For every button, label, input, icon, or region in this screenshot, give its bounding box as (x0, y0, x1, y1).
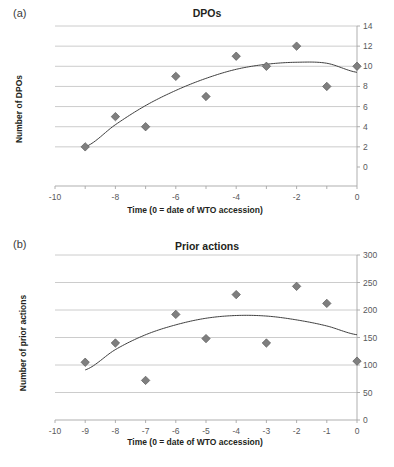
data-point-marker (202, 334, 210, 342)
data-point-marker (232, 52, 240, 60)
data-point-marker (202, 92, 210, 100)
y-tick-label: 100 (363, 360, 377, 370)
x-tick-label: -3 (263, 426, 271, 436)
plot-area-a: 02468101214-10-8-6-4-20 (0, 0, 394, 233)
y-tick-label: 6 (363, 102, 368, 112)
x-tick-label: -2 (293, 426, 301, 436)
plot-area-b: 050100150200250300-10-9-8-7-6-5-4-3-2-10 (0, 233, 394, 467)
data-point-marker (262, 62, 270, 70)
x-tick-label: 0 (355, 426, 360, 436)
x-tick-label: -5 (202, 426, 210, 436)
x-tick-label: 0 (355, 192, 360, 202)
y-tick-label: 250 (363, 278, 377, 288)
trend-line (85, 315, 357, 370)
y-tick-label: 8 (363, 81, 368, 91)
data-point-marker (141, 376, 149, 384)
data-point-marker (81, 143, 89, 151)
data-point-marker (141, 123, 149, 131)
data-point-marker (323, 299, 331, 307)
y-axis-label-b: Number of prior actions (18, 278, 28, 408)
x-tick-label: -10 (49, 192, 62, 202)
y-tick-label: 150 (363, 333, 377, 343)
y-tick-label: 12 (363, 41, 373, 51)
x-tick-label: -8 (112, 192, 120, 202)
data-point-marker (111, 112, 119, 120)
y-tick-label: 50 (363, 388, 373, 398)
x-tick-label: -10 (49, 426, 62, 436)
data-point-marker (111, 339, 119, 347)
y-tick-label: 300 (363, 250, 377, 260)
x-tick-label: -2 (293, 192, 301, 202)
chart-panel-b: (b) Prior actions 050100150200250300-10-… (0, 233, 394, 467)
data-point-marker (232, 290, 240, 298)
data-point-marker (323, 82, 331, 90)
y-tick-label: 4 (363, 122, 368, 132)
x-tick-label: -4 (232, 426, 240, 436)
data-point-marker (172, 72, 180, 80)
x-axis-label-a: Time (0 = date of WTO accession) (30, 205, 360, 215)
data-point-marker (353, 357, 361, 365)
x-tick-label: -4 (232, 192, 240, 202)
trend-line (85, 62, 357, 147)
data-point-marker (172, 310, 180, 318)
x-tick-label: -6 (172, 426, 180, 436)
x-tick-label: -7 (142, 426, 150, 436)
y-tick-label: 10 (363, 61, 373, 71)
x-axis-label-b: Time (0 = date of WTO accession) (30, 437, 360, 447)
x-tick-label: -6 (172, 192, 180, 202)
data-point-marker (292, 42, 300, 50)
data-point-marker (262, 339, 270, 347)
y-tick-label: 0 (363, 415, 368, 425)
y-tick-label: 200 (363, 305, 377, 315)
data-point-marker (353, 62, 361, 70)
y-tick-label: 14 (363, 21, 373, 31)
data-point-marker (292, 282, 300, 290)
x-tick-label: -9 (81, 426, 89, 436)
x-tick-label: -1 (323, 426, 331, 436)
y-tick-label: 0 (363, 162, 368, 172)
chart-panel-a: (a) DPOs Number of DPOs 02468101214-10-8… (0, 0, 394, 233)
y-tick-label: 2 (363, 142, 368, 152)
x-tick-label: -8 (112, 426, 120, 436)
